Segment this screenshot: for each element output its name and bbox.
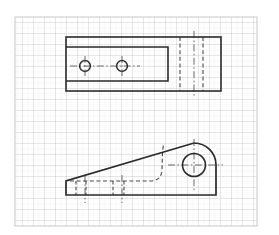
drawing-canvas <box>0 0 279 235</box>
drawing-sheet: Orthographic sketch on grid paper TOP VI… <box>0 0 279 235</box>
